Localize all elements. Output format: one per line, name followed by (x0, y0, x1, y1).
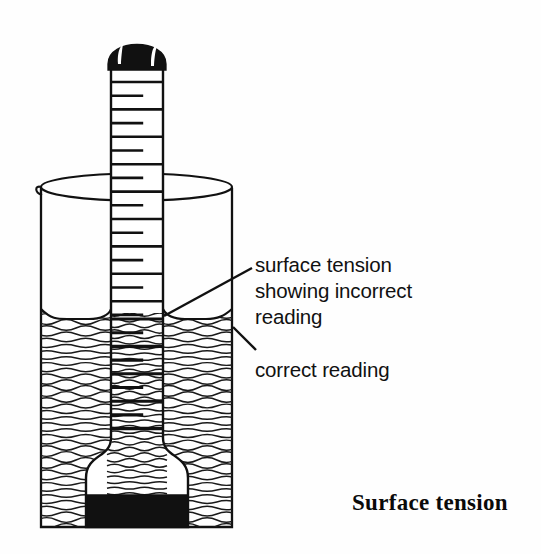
hydrometer-cap (108, 44, 166, 70)
water-hatch-line (37, 374, 115, 378)
water-hatch-line (37, 429, 115, 432)
water-hatch-line (37, 411, 115, 414)
annotation-incorrect-line-3: reading (255, 304, 412, 330)
annotation-incorrect-line-2: showing incorrect (255, 278, 412, 304)
water-hatch-line (159, 320, 236, 325)
water-hatch-line (159, 417, 236, 420)
water-hatch-line (37, 338, 115, 341)
cap-dome-shape (108, 45, 166, 71)
water-hatch-line (37, 320, 115, 325)
water-hatch-line (159, 338, 236, 341)
water-hatch-line (159, 374, 236, 378)
annotation-correct-line-1: correct reading (255, 357, 389, 383)
water-hatch-line (159, 357, 236, 359)
water-hatch-line (37, 386, 115, 391)
water-hatch-line (37, 435, 115, 438)
water-hatch-line (37, 530, 115, 535)
water-hatch-line (159, 440, 236, 444)
water-hatch-line (159, 368, 236, 371)
water-hatch-line (159, 351, 236, 353)
water-hatch-line (37, 363, 115, 366)
water-hatch-line (159, 404, 236, 408)
annotation-correct-reading: correct reading (255, 357, 389, 383)
leader-line-incorrect-reading (164, 268, 252, 316)
water-hatch-line (159, 332, 236, 336)
water-hatch-line (159, 423, 236, 425)
water-hatch-line (37, 446, 115, 450)
water-hatch-line (159, 398, 236, 402)
water-hatch-line (37, 357, 115, 359)
water-hatch-line (37, 440, 115, 444)
water-hatch-line (159, 326, 236, 331)
water-surface-line-left (41, 309, 111, 319)
water-hatch-line (159, 302, 236, 306)
water-hatch-line (159, 363, 236, 366)
water-hatch-line (37, 308, 115, 312)
water-hatch-line (37, 404, 115, 408)
figure-caption: Surface tension (352, 490, 508, 516)
water-hatch-line (37, 326, 115, 331)
water-hatch-line (37, 417, 115, 420)
water-hatch-line (159, 345, 236, 348)
surface-tension-diagram: surface tension showing incorrect readin… (0, 0, 541, 554)
water-hatch-line (159, 435, 236, 438)
water-hatch-line (159, 530, 236, 535)
water-hatch-line (37, 332, 115, 336)
annotation-surface-tension-incorrect: surface tension showing incorrect readin… (255, 252, 412, 330)
water-hatch-line (37, 398, 115, 402)
water-hatch-line (37, 380, 115, 385)
water-hatch-line (159, 386, 236, 391)
water-hatch-line (159, 392, 236, 397)
water-hatch-line (37, 345, 115, 348)
hydrometer-ballast (87, 495, 187, 527)
water-hatch-line (37, 368, 115, 371)
leader-line-correct-reading (233, 327, 256, 350)
water-hatch-line (37, 392, 115, 397)
water-hatch-line (159, 429, 236, 432)
water-hatch-line (159, 446, 236, 450)
water-hatch-line (37, 423, 115, 425)
annotation-incorrect-line-1: surface tension (255, 252, 412, 278)
water-hatch-line (159, 380, 236, 385)
water-hatch-line (37, 351, 115, 353)
water-hatch-line (159, 411, 236, 414)
water-hatch-line (37, 302, 115, 306)
